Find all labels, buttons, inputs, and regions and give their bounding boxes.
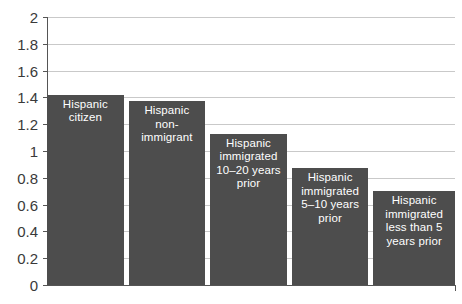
y-axis-tick-label: 1.8 [0,36,38,51]
x-axis-end-tick [455,285,456,291]
gridline [47,44,455,45]
y-axis-tick-label: 0.6 [0,197,38,212]
bar: Hispanic immigrated 5–10 years prior [292,168,369,285]
y-axis-tick-label: 0 [0,278,38,293]
y-axis-tick-label: 0.4 [0,224,38,239]
y-axis-tick-label: 1.2 [0,117,38,132]
y-axis-tick-labels: 21.81.61.41.210.80.60.40.20 [0,0,38,304]
bar-category-label: Hispanic immigrated 10–20 years prior [216,137,280,285]
y-axis-tick-label: 1.6 [0,63,38,78]
bar: Hispanic immigrated 10–20 years prior [210,134,287,285]
bar-chart: 21.81.61.41.210.80.60.40.20 Hispanic cit… [0,0,462,304]
y-axis-tick-label: 1 [0,144,38,159]
y-axis-tick-label: 2 [0,10,38,25]
y-axis-tick-label: 0.2 [0,251,38,266]
bar-category-label: Hispanic immigrated 5–10 years prior [301,171,359,285]
gridline [47,17,455,18]
bar: Hispanic immigrated less than 5 years pr… [373,191,455,285]
x-axis-line [47,285,455,286]
y-axis-tick-label: 0.8 [0,170,38,185]
bar: Hispanic citizen [47,95,124,285]
bar: Hispanic non- immigrant [129,101,206,285]
bar-category-label: Hispanic immigrated less than 5 years pr… [385,194,443,285]
gridline [47,71,455,72]
y-axis-tick-label: 1.4 [0,90,38,105]
bar-category-label: Hispanic non- immigrant [141,104,192,285]
bar-category-label: Hispanic citizen [63,98,108,285]
